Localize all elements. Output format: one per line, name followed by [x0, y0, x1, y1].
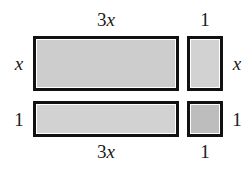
left-lower-dimension-label: 1 — [8, 110, 30, 129]
tile-x-right — [187, 36, 223, 91]
bottom-left-coefficient: 3 — [97, 141, 107, 162]
tile-unit — [187, 101, 223, 137]
top-left-coefficient: 3 — [97, 9, 107, 30]
left-upper-dimension-label: x — [8, 54, 30, 73]
right-lower-dimension-label: 1 — [227, 110, 247, 129]
tile-x-squared-times-three — [33, 36, 179, 91]
top-left-dimension-label: 3x — [33, 10, 179, 29]
tile-x-bottom — [33, 101, 179, 137]
top-left-variable: x — [107, 9, 115, 30]
top-right-dimension-label: 1 — [187, 10, 223, 29]
right-upper-dimension-label: x — [227, 54, 247, 73]
bottom-right-dimension-label: 1 — [187, 142, 223, 161]
algebra-tile-diagram: 3x 1 x 1 x 1 3x 1 — [0, 0, 252, 171]
tile-inner-highlight — [36, 39, 176, 88]
tile-inner-highlight — [36, 104, 176, 134]
tile-inner-highlight — [190, 104, 220, 134]
tile-inner-highlight — [190, 39, 220, 88]
bottom-left-variable: x — [107, 141, 115, 162]
bottom-left-dimension-label: 3x — [33, 142, 179, 161]
